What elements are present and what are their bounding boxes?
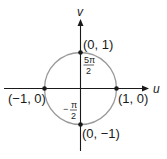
v-axis-label: v (77, 5, 84, 19)
u-axis-label: u (153, 82, 160, 96)
point-label-bottom: (0, −1) (82, 126, 120, 141)
v-axis-arrow-icon (78, 19, 84, 26)
point-label-left: (−1, 0) (8, 91, 46, 106)
angle-label-top: 5π 2 (84, 55, 96, 76)
angle-top-denominator: 2 (86, 66, 91, 76)
angle-label-bottom: − π 2 (63, 100, 77, 121)
angle-bottom-numerator: π (71, 100, 77, 110)
angle-bottom-sign: − (63, 104, 68, 114)
angle-bottom-denominator: 2 (71, 111, 76, 121)
point-label-top: (0, 1) (83, 37, 113, 52)
point-label-right: (1, 0) (118, 91, 148, 106)
angle-top-numerator: 5π (84, 55, 95, 65)
unit-circle-diagram: u v (0, 1) (1, 0) (0, −1) (−1, 0) 5π 2 −… (0, 0, 167, 159)
